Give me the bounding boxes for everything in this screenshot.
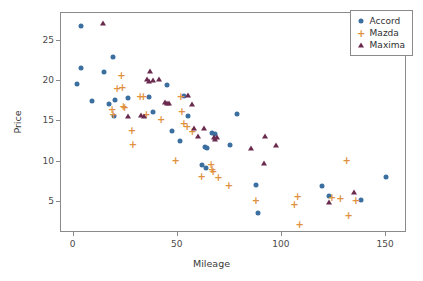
data-point-maxima	[248, 145, 254, 150]
data-point-mazda	[198, 173, 205, 180]
x-tick-label: 50	[171, 239, 182, 249]
y-tick-mark	[56, 80, 60, 81]
data-point-maxima	[166, 100, 172, 105]
data-point-maxima	[326, 200, 332, 205]
data-point-accord	[113, 98, 118, 103]
x-axis-title: Mileage	[0, 258, 423, 269]
plus-marker-icon: +	[356, 28, 367, 39]
data-point-maxima	[147, 69, 153, 74]
data-point-accord	[227, 142, 232, 147]
y-tick-mark	[56, 201, 60, 202]
data-point-accord	[256, 210, 261, 215]
data-point-mazda	[118, 72, 125, 79]
legend-item-maxima[interactable]: Maxima	[356, 39, 405, 51]
data-point-mazda	[294, 193, 301, 200]
data-point-accord	[169, 128, 174, 133]
data-point-mazda	[252, 197, 259, 204]
chart-legend: Accord+MazdaMaxima	[350, 10, 413, 56]
data-point-accord	[319, 183, 324, 188]
data-point-accord	[253, 183, 258, 188]
data-point-accord	[78, 65, 83, 70]
data-point-mazda	[291, 201, 298, 208]
scatter-chart-figure: 050100150 510152025 Accord+MazdaMaxima M…	[0, 0, 423, 281]
legend-item-mazda[interactable]: +Mazda	[356, 27, 405, 39]
data-point-maxima	[125, 114, 131, 119]
data-point-maxima	[201, 126, 207, 131]
x-tick-mark	[281, 232, 282, 236]
x-tick-mark	[73, 232, 74, 236]
data-point-mazda	[140, 93, 147, 100]
x-tick-mark	[177, 232, 178, 236]
data-point-maxima	[351, 190, 357, 195]
data-point-accord	[235, 111, 240, 116]
legend-label: Mazda	[370, 28, 399, 39]
data-point-accord	[111, 55, 116, 60]
data-point-mazda	[215, 174, 222, 181]
data-point-mazda	[158, 116, 165, 123]
data-point-maxima	[214, 134, 220, 139]
legend-label: Accord	[370, 16, 401, 27]
data-point-maxima	[185, 92, 191, 97]
data-point-mazda	[345, 212, 352, 219]
data-point-maxima	[141, 113, 147, 118]
data-point-accord	[384, 175, 389, 180]
x-tick-label: 100	[272, 239, 289, 249]
data-point-mazda	[337, 195, 344, 202]
data-point-maxima	[195, 133, 201, 138]
data-point-mazda	[129, 141, 136, 148]
x-tick-mark	[385, 232, 386, 236]
data-point-accord	[126, 95, 131, 100]
y-tick-mark	[56, 120, 60, 121]
triangle-marker-icon	[356, 40, 367, 51]
data-point-mazda	[177, 93, 184, 100]
data-point-maxima	[189, 102, 195, 107]
data-point-mazda	[172, 157, 179, 164]
data-point-maxima	[150, 77, 156, 82]
data-point-maxima	[191, 126, 197, 131]
data-point-accord	[101, 69, 106, 74]
circle-marker-icon	[356, 16, 367, 27]
x-tick-label: 0	[70, 239, 76, 249]
legend-item-accord[interactable]: Accord	[356, 15, 405, 27]
y-axis-title: Price	[12, 110, 23, 133]
data-point-mazda	[296, 221, 303, 228]
y-tick-label: 15	[32, 115, 54, 125]
legend-label: Maxima	[370, 40, 405, 51]
data-point-maxima	[156, 77, 162, 82]
data-point-mazda	[128, 127, 135, 134]
y-tick-label: 5	[32, 196, 54, 206]
y-tick-label: 10	[32, 156, 54, 166]
x-tick-label: 150	[377, 239, 394, 249]
y-tick-label: 25	[32, 35, 54, 45]
data-point-accord	[79, 23, 84, 28]
data-point-accord	[90, 98, 95, 103]
data-point-mazda	[119, 84, 126, 91]
data-point-accord	[165, 82, 170, 87]
data-point-accord	[204, 145, 209, 150]
y-tick-mark	[56, 40, 60, 41]
data-point-mazda	[343, 157, 350, 164]
data-point-mazda	[178, 108, 185, 115]
data-point-maxima	[261, 161, 267, 166]
y-tick-label: 20	[32, 75, 54, 85]
data-point-accord	[75, 81, 80, 86]
y-tick-mark	[56, 161, 60, 162]
data-point-accord	[177, 138, 182, 143]
data-point-mazda	[110, 111, 117, 118]
data-point-maxima	[262, 133, 268, 138]
data-point-maxima	[100, 21, 106, 26]
data-point-mazda	[352, 197, 359, 204]
data-point-mazda	[225, 182, 232, 189]
data-point-maxima	[273, 143, 279, 148]
data-point-mazda	[121, 104, 128, 111]
data-point-accord	[150, 110, 155, 115]
